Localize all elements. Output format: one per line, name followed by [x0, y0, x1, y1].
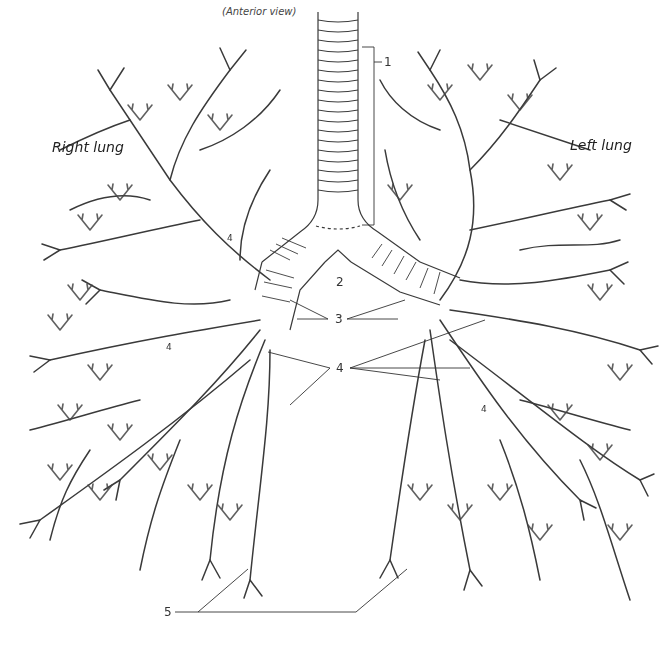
view-label: (Anterior view)	[222, 6, 296, 17]
callout-5: 5	[164, 605, 172, 619]
trachea	[255, 12, 460, 330]
callout-1: 1	[384, 55, 392, 69]
callout-4: 4	[336, 361, 344, 375]
right-lung-label: Right lung	[52, 139, 124, 155]
callout-2: 2	[336, 275, 344, 289]
left-lung-branches	[380, 50, 658, 600]
left-lung-label: Left lung	[570, 137, 632, 153]
inline-label-4-left-lower: 4	[481, 404, 487, 414]
inline-label-4-right-middle: 4	[166, 342, 172, 352]
bronchial-tree-illustration	[0, 0, 664, 647]
inline-label-4-right-upper: 4	[227, 233, 233, 243]
right-lung-branches	[20, 48, 280, 598]
callout-3: 3	[335, 312, 343, 326]
